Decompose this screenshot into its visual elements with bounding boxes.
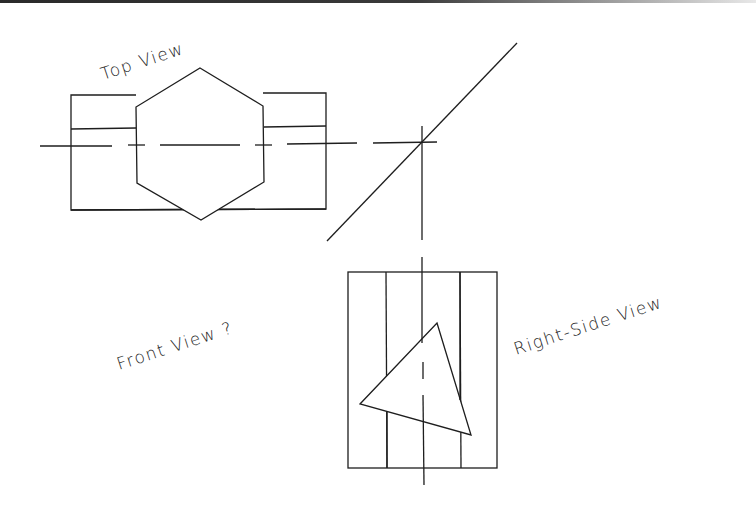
right-side-view-label: Right-Side View (511, 292, 665, 359)
top-view-inner-line-left (71, 128, 136, 129)
top-view-inner-line-right (264, 126, 326, 127)
projection-drawing: Top View Front View ? Right-Side View (0, 0, 756, 513)
top-view-label: Top View (98, 38, 186, 84)
right-side-view-triangle (360, 323, 471, 435)
front-view-label: Front View ? (114, 317, 235, 373)
right-side-view (348, 272, 497, 485)
top-view-hexagon (136, 68, 264, 220)
top-view (40, 68, 437, 220)
